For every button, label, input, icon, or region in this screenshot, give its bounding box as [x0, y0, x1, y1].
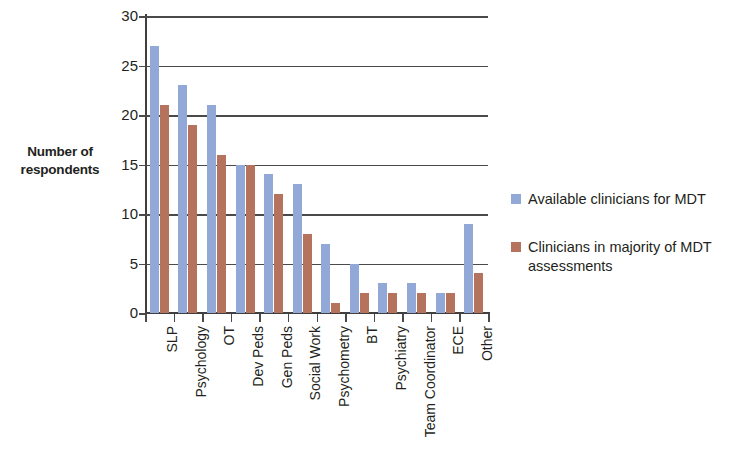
bar [236, 165, 245, 314]
y-tick-label: 25 [102, 58, 138, 73]
plot-area [145, 16, 488, 313]
bar [417, 293, 426, 313]
legend-entry: Available clinicians for MDT [511, 190, 739, 209]
bar [321, 244, 330, 313]
bar [274, 194, 283, 313]
y-tick-label: 5 [102, 256, 138, 271]
y-tick-label: 30 [102, 8, 138, 23]
bar [188, 125, 197, 313]
x-tick-mark [488, 314, 490, 322]
y-tick-label: 20 [102, 107, 138, 122]
bar-group [374, 16, 403, 313]
legend-entry: Clinicians in majority of MDT assessment… [511, 238, 739, 276]
bar [464, 224, 473, 313]
x-tick-mark [202, 314, 204, 322]
bar [360, 293, 369, 313]
bar [178, 85, 187, 313]
x-axis-label: Other [480, 326, 494, 361]
bar [350, 264, 359, 314]
y-axis-title: Number of respondents [8, 143, 112, 179]
bar [303, 234, 312, 313]
x-tick-mark [174, 314, 176, 322]
bar-group [459, 16, 488, 313]
bar [293, 184, 302, 313]
x-tick-mark [374, 314, 376, 322]
bar [246, 165, 255, 314]
bar-group [145, 16, 174, 313]
x-tick-mark [345, 314, 347, 322]
bar-group [231, 16, 260, 313]
x-tick-mark [231, 314, 233, 322]
legend-swatch [511, 194, 521, 204]
x-tick-mark [402, 314, 404, 322]
bar [207, 105, 216, 313]
x-axis-label: Psychometry [337, 326, 351, 407]
bar [388, 293, 397, 313]
legend-label: Clinicians in majority of MDT assessment… [528, 239, 711, 274]
x-tick-mark [431, 314, 433, 322]
bar-group [259, 16, 288, 313]
bar [436, 293, 445, 313]
x-tick-mark [288, 314, 290, 322]
x-axis-label: OT [222, 326, 236, 345]
bar [160, 105, 169, 313]
x-axis-label: Psychiatry [394, 326, 408, 391]
x-axis-label: Team Coordinator [423, 326, 437, 437]
bar-group [345, 16, 374, 313]
x-axis-label: BT [365, 326, 379, 344]
bar [217, 155, 226, 313]
bar [331, 303, 340, 313]
legend-swatch [511, 242, 521, 252]
bar-group [402, 16, 431, 313]
x-axis-label: Social Work [308, 326, 322, 400]
bar [474, 273, 483, 313]
legend-label: Available clinicians for MDT [528, 191, 706, 207]
y-tick-label: 10 [102, 206, 138, 221]
bar-group [288, 16, 317, 313]
x-axis-label: ECE [451, 326, 465, 355]
y-axis-title-line-1: Number of [8, 143, 112, 161]
y-tick-label: 0 [102, 305, 138, 320]
x-tick-mark [259, 314, 261, 322]
x-tick-mark [459, 314, 461, 322]
x-axis-label: SLP [165, 326, 179, 352]
y-axis-title-line-2: respondents [8, 161, 112, 179]
bar-group [174, 16, 203, 313]
bar [407, 283, 416, 313]
bar-group [317, 16, 346, 313]
x-axis-label: Dev Peds [251, 326, 265, 387]
bar [378, 283, 387, 313]
bar-group [202, 16, 231, 313]
bar [264, 174, 273, 313]
bar [446, 293, 455, 313]
legend: Available clinicians for MDTClinicians i… [511, 190, 739, 305]
bar [150, 46, 159, 313]
bar-chart: Number of respondents 302520151050 SLPPs… [0, 0, 744, 466]
x-tick-mark [317, 314, 319, 322]
x-axis-label: Psychology [194, 326, 208, 398]
bar-group [431, 16, 460, 313]
x-tick-mark [145, 314, 147, 322]
x-axis-label: Gen Peds [280, 326, 294, 388]
y-tick-label: 15 [102, 157, 138, 172]
